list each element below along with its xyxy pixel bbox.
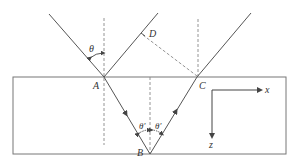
refracted-ray-AB [104,77,150,154]
reflected-ray-BC [150,77,197,154]
label-theta: θ [89,43,94,54]
label-theta-prime-left: θ′ [139,121,146,131]
ray-diagram-svg: θ D A C B θ′ θ′ x z [0,0,297,164]
incident-ray [49,14,104,77]
reflected-ray-A [104,13,158,77]
label-D: D [148,28,157,39]
label-A: A [92,80,100,91]
slab-boundary [13,77,286,154]
label-B: B [137,147,143,158]
wavefront-D-C [143,35,197,76]
label-C: C [199,80,206,91]
label-z-axis: z [208,139,213,150]
emergent-ray-C [197,13,251,77]
label-x-axis: x [264,84,270,95]
diagram: θ D A C B θ′ θ′ x z [0,0,297,164]
label-theta-prime-right: θ′ [155,121,162,131]
